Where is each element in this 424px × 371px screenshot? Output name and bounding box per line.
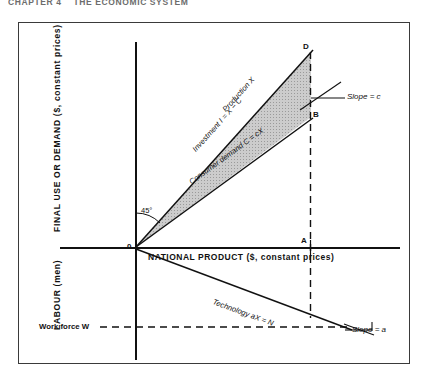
vertical-axis xyxy=(135,42,137,360)
running-head: CHAPTER 4THE ECONOMIC SYSTEM xyxy=(8,0,308,9)
slope-a-label: Slope = a xyxy=(352,325,386,334)
point-label-a: A xyxy=(301,236,307,245)
point-label-b: B xyxy=(313,110,319,119)
running-head-chapter: CHAPTER 4 xyxy=(8,0,62,7)
y-axis-upper-label: FINAL USE OR DEMAND ($, constant prices) xyxy=(52,24,62,232)
origin-label: 0 xyxy=(127,242,131,251)
running-head-title: THE ECONOMIC SYSTEM xyxy=(74,0,189,7)
slope-c-label: Slope = c xyxy=(347,92,381,101)
figure-frame xyxy=(18,22,410,364)
y-axis-lower-label: LABOUR (men) xyxy=(52,260,62,330)
x-axis-label: NATIONAL PRODUCT ($, constant prices) xyxy=(148,252,334,262)
work-force-label: Work force W xyxy=(39,322,89,331)
point-label-d: D xyxy=(303,42,309,51)
horizontal-axis xyxy=(60,247,400,249)
angle-45-label: 45° xyxy=(141,206,152,215)
